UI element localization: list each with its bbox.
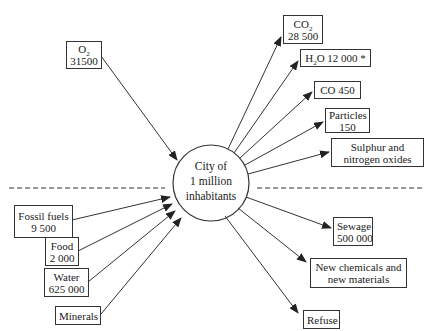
input-minerals: Minerals	[55, 306, 101, 325]
city-line-2: 1 million	[173, 174, 249, 189]
output-new-chemicals: New chemicals and new materials	[310, 258, 407, 288]
output-sulphur-nitrogen-oxides: Sulphur and nitrogen oxides	[331, 138, 424, 167]
output-particles: Particles 150	[325, 108, 370, 133]
output-refuse: Refuse	[303, 310, 340, 329]
city-line-3: inhabitants	[173, 189, 249, 204]
input-o2-value: 31500	[70, 55, 98, 67]
output-sewage: Sewage 500 000	[333, 217, 373, 246]
city-line-1: City of	[173, 159, 249, 174]
input-food: Food 2 000	[45, 237, 79, 266]
output-co: CO 450	[314, 81, 361, 99]
input-fossil-fuels: Fossil fuels 9 500	[14, 205, 73, 238]
city-label: City of 1 million inhabitants	[173, 159, 249, 204]
input-water: Water 625 000	[44, 268, 89, 297]
input-o2: O2 31500	[66, 41, 102, 69]
output-co2: CO2 28 500	[283, 15, 323, 44]
output-h2o: H2O 12 000 *	[300, 49, 371, 67]
